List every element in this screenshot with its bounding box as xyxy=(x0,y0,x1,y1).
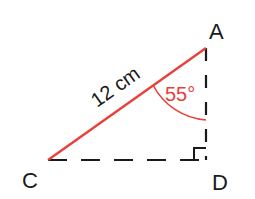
angle-label: 55° xyxy=(165,83,195,105)
right-angle-marker xyxy=(194,148,206,160)
vertex-label-a: A xyxy=(209,19,224,44)
vertex-label-d: D xyxy=(212,170,228,195)
right-triangle-diagram: 55° 12 cm A C D xyxy=(0,0,255,199)
hypotenuse-length-label: 12 cm xyxy=(87,62,144,111)
vertex-label-c: C xyxy=(22,168,38,193)
